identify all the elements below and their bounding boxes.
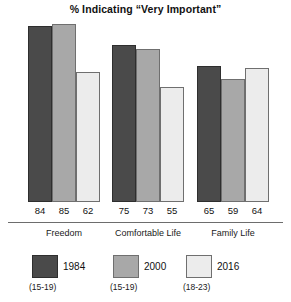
bar-freedom-2000 — [52, 24, 76, 202]
value-row-bottom-rule — [8, 222, 283, 223]
value-label-comfortable-life-2000: 73 — [136, 203, 160, 219]
bar-group-family-life — [197, 18, 269, 202]
legend-age-range-1984: (15-19) — [29, 282, 56, 293]
bar-group-comfortable-life — [112, 18, 184, 202]
category-label-row: FreedomComfortable LifeFamily Life — [0, 226, 291, 242]
bar-family-life-2000 — [221, 79, 245, 202]
legend-year-2000: 2000 — [144, 261, 166, 273]
bar-family-life-2016 — [245, 68, 269, 202]
bar-freedom-1984 — [28, 26, 52, 202]
value-group-family-life: 655964 — [197, 203, 269, 221]
legend-age-range-2016: (18-23) — [183, 282, 210, 293]
value-label-freedom-1984: 84 — [28, 203, 52, 219]
chart-title: % Indicating “Very Important” — [0, 3, 291, 15]
bar-comfortable-life-2016 — [160, 87, 184, 202]
value-label-row: 848562757355655964 — [0, 203, 291, 221]
value-label-family-life-2000: 59 — [221, 203, 245, 219]
bar-freedom-2016 — [76, 72, 100, 202]
bar-family-life-1984 — [197, 66, 221, 202]
bar-chart: % Indicating “Very Important” 8485627573… — [0, 0, 291, 302]
chart-legend: 1984(15-19)2000(15-19)2016(18-23) — [0, 255, 291, 301]
value-label-freedom-2000: 85 — [52, 203, 76, 219]
dark-gray-swatch — [32, 255, 58, 278]
light-gray-swatch — [186, 255, 212, 278]
legend-year-2016: 2016 — [217, 261, 239, 273]
bar-comfortable-life-2000 — [136, 49, 160, 202]
value-group-comfortable-life: 757355 — [112, 203, 184, 221]
legend-age-range-2000: (15-19) — [110, 282, 137, 293]
bar-comfortable-life-1984 — [112, 45, 136, 202]
category-label-family-life: Family Life — [179, 226, 287, 240]
value-group-freedom: 848562 — [28, 203, 100, 221]
plot-area — [0, 18, 291, 202]
value-label-freedom-2016: 62 — [76, 203, 100, 219]
medium-gray-swatch — [113, 255, 139, 278]
value-label-family-life-1984: 65 — [197, 203, 221, 219]
bar-group-freedom — [28, 18, 100, 202]
legend-year-1984: 1984 — [63, 261, 85, 273]
value-label-comfortable-life-1984: 75 — [112, 203, 136, 219]
value-label-comfortable-life-2016: 55 — [160, 203, 184, 219]
value-label-family-life-2016: 64 — [245, 203, 269, 219]
